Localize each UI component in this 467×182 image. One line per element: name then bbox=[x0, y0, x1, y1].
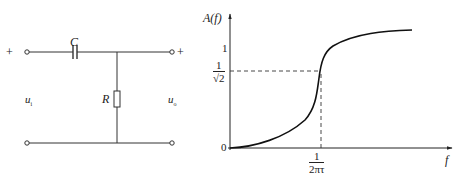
diagram-root: + + C R ui uo A(f) f 0 1 1 √2 1 2πτ bbox=[0, 0, 467, 182]
input-voltage-subscript: i bbox=[31, 101, 33, 107]
input-plus-sign: + bbox=[6, 46, 13, 58]
y-tick-one: 1 bbox=[222, 43, 228, 54]
resistor-label: R bbox=[102, 93, 109, 105]
y-axis-label: A(f) bbox=[203, 12, 222, 24]
capacitor-label: C bbox=[70, 36, 78, 48]
output-voltage-subscript: o bbox=[174, 101, 177, 107]
diagram-drawing bbox=[0, 0, 467, 182]
output-terminal-top bbox=[170, 50, 174, 54]
y-tick-denominator: √2 bbox=[213, 72, 225, 84]
resistor-body bbox=[114, 91, 120, 107]
output-plus-sign: + bbox=[177, 46, 184, 58]
output-voltage-label: uo bbox=[168, 94, 177, 107]
input-terminal-bottom bbox=[25, 141, 29, 145]
input-voltage-label: ui bbox=[25, 94, 32, 107]
output-terminal-bottom bbox=[170, 141, 174, 145]
y-tick-numerator: 1 bbox=[213, 60, 225, 72]
y-tick-inv-sqrt2: 1 √2 bbox=[213, 60, 225, 84]
x-tick-cutoff: 1 2πτ bbox=[309, 151, 324, 175]
x-tick-denominator: 2πτ bbox=[309, 163, 324, 175]
rc-circuit bbox=[25, 45, 174, 145]
x-tick-numerator: 1 bbox=[309, 151, 324, 163]
origin-label: 0 bbox=[221, 142, 227, 153]
frequency-response-chart bbox=[228, 14, 452, 150]
x-axis-label: f bbox=[445, 154, 448, 166]
input-terminal-top bbox=[25, 50, 29, 54]
